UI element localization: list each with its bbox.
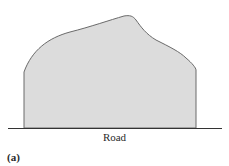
building-profile-shape xyxy=(24,16,196,128)
panel-label: (a) xyxy=(7,151,20,163)
road-label: Road xyxy=(0,131,229,143)
